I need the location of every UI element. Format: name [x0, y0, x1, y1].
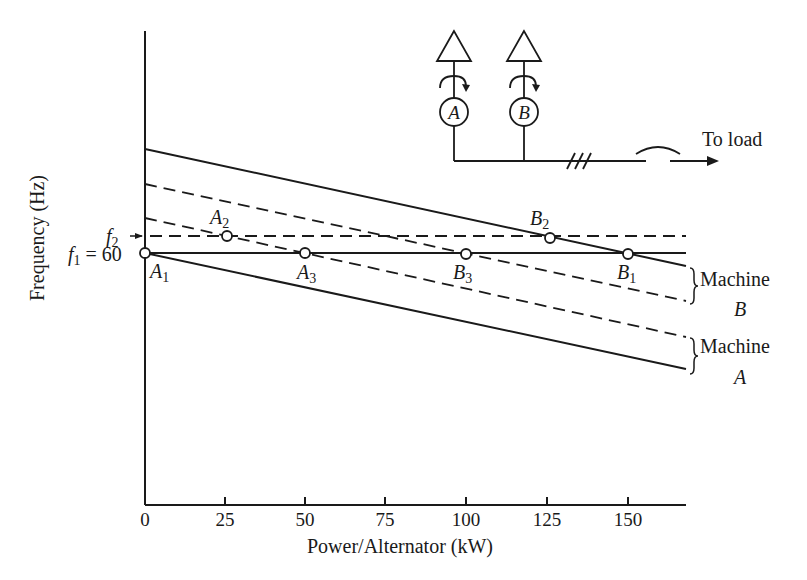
point-b3: [461, 249, 471, 259]
label-b3: B3: [453, 261, 472, 286]
generator-b-label: B: [518, 102, 530, 123]
governor-droop-chart: 0 25 50 75 100 125 150 Power/Alternator …: [0, 0, 807, 580]
machine-b-initial-line: [145, 149, 686, 266]
f1-label: f1 = 60: [68, 243, 122, 268]
machine-a-initial-line: [145, 253, 686, 369]
x-tick-labels: 0 25 50 75 100 125 150: [140, 509, 642, 530]
x-tick-125: 125: [533, 509, 562, 530]
point-a2: [222, 231, 232, 241]
x-tick-0: 0: [140, 509, 150, 530]
label-a1: A1: [148, 260, 169, 285]
three-phase-icon: [567, 153, 591, 169]
legend-machine-a-line1: Machine: [700, 335, 770, 357]
to-load-label: To load: [702, 128, 762, 150]
prime-mover-a-icon: [437, 31, 471, 61]
label-a3: A3: [295, 261, 316, 286]
x-tick-25: 25: [216, 509, 235, 530]
f2-arrow-icon: [130, 233, 143, 239]
generator-a-label: A: [446, 102, 460, 123]
legend-machine-b-line1: Machine: [700, 268, 770, 290]
label-b1: B1: [617, 261, 636, 286]
x-tick-150: 150: [614, 509, 643, 530]
x-tick-50: 50: [296, 509, 315, 530]
x-axis-title: Power/Alternator (kW): [307, 535, 493, 558]
rotation-arrow-a-icon: [440, 76, 466, 88]
brace-machine-b-icon: [690, 268, 698, 304]
switch-icon: [636, 147, 680, 154]
point-b2: [545, 233, 555, 243]
label-a2: A2: [208, 206, 229, 231]
x-tick-75: 75: [376, 509, 395, 530]
legend-machine-b-line2: B: [734, 298, 746, 320]
x-tick-100: 100: [452, 509, 481, 530]
brace-machine-a-icon: [690, 338, 698, 374]
x-ticks: [225, 497, 628, 505]
y-axis-title: Frequency (Hz): [26, 175, 49, 301]
label-b2: B2: [530, 207, 549, 232]
point-a3: [300, 248, 310, 258]
arrow-right-icon: [707, 156, 719, 166]
prime-mover-b-icon: [507, 31, 541, 61]
rotation-arrow-b-icon: [510, 76, 536, 88]
machine-b-final-line: [145, 184, 686, 301]
point-b1: [623, 249, 633, 259]
point-a1: [140, 248, 150, 258]
circuit-diagram: A B To load: [437, 31, 762, 169]
legend-machine-a-line2: A: [732, 366, 747, 388]
